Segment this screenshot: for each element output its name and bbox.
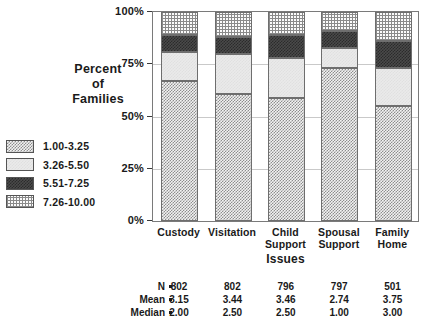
- bar-segment-1.00-3.25[interactable]: [161, 81, 198, 221]
- stats-cell: 802: [204, 281, 260, 292]
- stats-cell: 3.15: [151, 294, 207, 305]
- x-tick-label-family-home: FamilyHome: [360, 226, 425, 250]
- bar-segment-7.26-10.00[interactable]: [375, 12, 412, 41]
- bar-segment-5.51-7.25[interactable]: [375, 41, 412, 68]
- y-tick-label-0: 0%: [104, 214, 144, 226]
- bar-segment-3.26-5.50[interactable]: [215, 54, 252, 94]
- stats-cell: 802: [151, 281, 207, 292]
- stats-cell: 3.46: [258, 294, 314, 305]
- legend-item-4: 7.26-10.00: [6, 193, 138, 212]
- stats-table: N802802796797501Mean3.153.443.462.743.75…: [0, 281, 425, 320]
- stats-cell: 3.75: [365, 294, 421, 305]
- bar-segment-3.26-5.50[interactable]: [161, 52, 198, 81]
- y-tick-label-50: 50%: [104, 110, 144, 122]
- legend-swatch-3.26-5.50: [6, 158, 34, 171]
- plot-area: [152, 11, 419, 222]
- bar-segment-5.51-7.25[interactable]: [268, 35, 305, 58]
- stats-cell: 3.00: [365, 307, 421, 318]
- y-tick-label-100: 100%: [104, 5, 144, 17]
- bar-segment-5.51-7.25[interactable]: [215, 37, 252, 54]
- legend-label-1.00-3.25: 1.00-3.25: [43, 140, 89, 152]
- stats-row-median: Median2.002.502.501.003.00: [0, 307, 425, 320]
- bar-segment-3.26-5.50[interactable]: [375, 68, 412, 106]
- stats-cell: 501: [365, 281, 421, 292]
- bar-child-support[interactable]: [268, 12, 305, 221]
- bar-segment-7.26-10.00[interactable]: [215, 12, 252, 37]
- bar-segment-1.00-3.25[interactable]: [268, 98, 305, 221]
- stats-row-mean: Mean3.153.443.462.743.75: [0, 294, 425, 307]
- stats-cell: 2.00: [151, 307, 207, 318]
- bar-segment-5.51-7.25[interactable]: [161, 35, 198, 52]
- bar-segment-7.26-10.00[interactable]: [161, 12, 198, 35]
- legend-label-3.26-5.50: 3.26-5.50: [43, 159, 89, 171]
- bar-segment-7.26-10.00[interactable]: [321, 12, 358, 31]
- legend-item-3: 5.51-7.25: [6, 174, 138, 193]
- stats-cell: 1.00: [311, 307, 367, 318]
- stats-cell: 2.50: [204, 307, 260, 318]
- stats-cell: 796: [258, 281, 314, 292]
- y-axis-title-line-3: Families: [52, 92, 144, 107]
- stats-cell: 3.44: [204, 294, 260, 305]
- bar-segment-5.51-7.25[interactable]: [321, 31, 358, 48]
- legend-item-1: 1.00-3.25: [6, 137, 138, 156]
- stats-cell: 2.74: [311, 294, 367, 305]
- y-tick-label-25: 25%: [104, 162, 144, 174]
- legend-swatch-1.00-3.25: [6, 140, 34, 153]
- x-tick-label-line: Family: [360, 226, 425, 238]
- bar-segment-1.00-3.25[interactable]: [321, 68, 358, 221]
- legend-label-7.26-10.00: 7.26-10.00: [43, 196, 95, 208]
- y-axis-title-line-2: of: [52, 77, 144, 92]
- stats-cell: 797: [311, 281, 367, 292]
- bar-segment-1.00-3.25[interactable]: [215, 94, 252, 221]
- bar-segment-7.26-10.00[interactable]: [268, 12, 305, 35]
- chart-figure: Percent of Families 1.00-3.25 3.26-5.50 …: [0, 0, 425, 331]
- bar-segment-3.26-5.50[interactable]: [321, 48, 358, 69]
- legend-swatch-5.51-7.25: [6, 177, 34, 190]
- x-tick-label-line: Home: [360, 238, 425, 250]
- bar-segment-3.26-5.50[interactable]: [268, 58, 305, 98]
- bar-spousal-support[interactable]: [321, 12, 358, 221]
- bar-custody[interactable]: [161, 12, 198, 221]
- stats-cell: 2.50: [258, 307, 314, 318]
- legend-label-5.51-7.25: 5.51-7.25: [43, 177, 89, 189]
- y-tick-label-75: 75%: [104, 57, 144, 69]
- x-axis-title: Issues: [152, 252, 419, 266]
- legend: 1.00-3.25 3.26-5.50 5.51-7.25 7.26-10.00: [6, 137, 138, 211]
- bar-visitation[interactable]: [215, 12, 252, 221]
- stats-row-n: N802802796797501: [0, 281, 425, 294]
- bar-segment-1.00-3.25[interactable]: [375, 106, 412, 221]
- bar-family-home[interactable]: [375, 12, 412, 221]
- legend-swatch-7.26-10.00: [6, 195, 34, 208]
